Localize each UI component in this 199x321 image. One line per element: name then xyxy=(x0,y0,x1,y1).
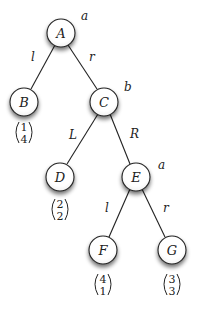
node-label: A xyxy=(55,26,65,41)
node-label: D xyxy=(54,170,66,185)
player-label-E: a xyxy=(158,158,165,172)
edge-label-A-B: l xyxy=(31,50,35,64)
edge-label-E-F: l xyxy=(105,201,109,215)
edge-label-A-C: r xyxy=(89,50,96,64)
node-A: A xyxy=(47,19,75,47)
edges xyxy=(31,45,165,237)
payoff-D: 2 2 xyxy=(52,198,68,223)
node-C: C xyxy=(90,88,118,116)
payoff-B: 1 4 xyxy=(16,121,32,146)
payoff-value-2: 3 xyxy=(169,285,176,298)
edge-label-C-D: L xyxy=(68,128,77,142)
node-label: G xyxy=(167,243,177,258)
node-E: E xyxy=(122,163,150,191)
edge-E-F xyxy=(109,189,130,237)
node-B: B xyxy=(10,88,38,116)
edge-C-E xyxy=(110,114,130,164)
payoff-value-2: 4 xyxy=(21,133,28,146)
player-label-A: a xyxy=(81,9,88,23)
game-tree-diagram: l r L R l r A B C D E F G a b a 1 4 xyxy=(0,0,199,321)
node-D: D xyxy=(46,163,74,191)
edge-label-E-G: r xyxy=(163,201,170,215)
player-label-C: b xyxy=(124,80,132,94)
node-G: G xyxy=(158,236,186,264)
node-label: F xyxy=(97,243,108,258)
payoff-value-2: 2 xyxy=(57,210,64,223)
node-label: B xyxy=(18,95,29,110)
node-F: F xyxy=(89,236,117,264)
payoff-G: 3 3 xyxy=(164,273,180,298)
edge-E-G xyxy=(142,189,165,237)
payoff-value-2: 1 xyxy=(100,285,107,298)
node-label: C xyxy=(99,95,109,110)
edge-label-C-E: R xyxy=(129,127,139,141)
node-label: E xyxy=(130,170,141,185)
payoff-F: 4 1 xyxy=(95,273,111,298)
